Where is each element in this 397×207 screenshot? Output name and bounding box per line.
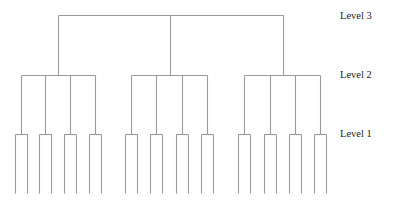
hierarchy-tree-diagram [0, 0, 397, 207]
level-2-label: Level 2 [340, 69, 372, 80]
level-1-label: Level 1 [340, 128, 372, 139]
level-3-label: Level 3 [340, 10, 372, 21]
